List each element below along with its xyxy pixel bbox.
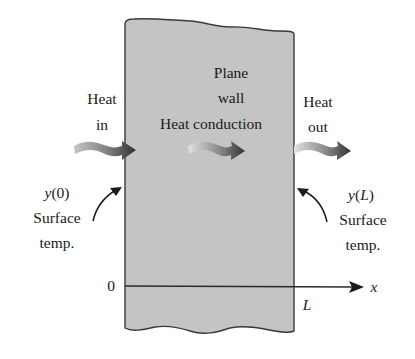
diagram-canvas [0, 0, 415, 359]
right-surface-label-line3: temp. [326, 236, 400, 254]
heat-out-arrow-icon [294, 141, 351, 160]
right-surface-arg: L [360, 186, 369, 203]
left-surface-label-line2: Surface [20, 209, 94, 227]
right-surface-arg-close: ) [369, 186, 374, 203]
axis-origin-label: 0 [104, 277, 118, 295]
heat-in-label-line2: in [80, 116, 124, 134]
wall-label-plane: Plane [188, 64, 274, 82]
right-surface-pointer-icon [297, 188, 327, 222]
left-surface-pointer-icon [93, 187, 122, 221]
heat-in-label-line1: Heat [80, 90, 124, 108]
axis-x-label: x [368, 278, 380, 296]
right-surface-var: y [348, 186, 355, 203]
axis-end-label-L: L [299, 296, 315, 314]
right-surface-symbol: y(L) [326, 186, 396, 204]
left-surface-arg: (0) [51, 184, 69, 201]
heat-out-label-line2: out [296, 118, 340, 136]
heat-out-label-line1: Heat [296, 93, 340, 111]
wall-label-wall: wall [188, 89, 274, 107]
wall-label-heat-conduction: Heat conduction [141, 115, 281, 133]
left-surface-symbol: y(0) [22, 184, 92, 202]
right-surface-label-line2: Surface [326, 211, 400, 229]
left-surface-label-line3: temp. [20, 234, 94, 252]
